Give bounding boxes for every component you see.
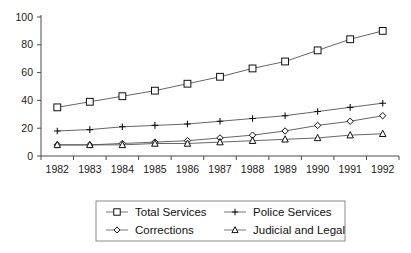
legend-label: Total Services	[135, 206, 207, 218]
marker-square	[54, 104, 61, 111]
marker-square	[152, 87, 159, 94]
x-tick-label: 1990	[306, 163, 330, 175]
x-tick-label: 1991	[339, 163, 363, 175]
marker-square	[217, 73, 224, 80]
chart-canvas: 020406080100 198219831984198519861987198…	[0, 0, 411, 253]
x-tick-label: 1987	[208, 163, 232, 175]
line-chart: 020406080100 198219831984198519861987198…	[0, 0, 411, 253]
legend-label: Police Services	[253, 206, 332, 218]
marker-square	[119, 93, 126, 100]
y-tick-label: 60	[21, 66, 33, 78]
marker-square	[347, 36, 354, 43]
marker-square	[249, 65, 256, 72]
legend-label: Judicial and Legal	[253, 224, 345, 236]
marker-square	[114, 209, 120, 215]
x-tick-label: 1982	[46, 163, 70, 175]
marker-square	[282, 58, 289, 65]
y-tick-label: 80	[21, 38, 33, 50]
x-tick-label: 1992	[371, 163, 395, 175]
y-tick-label: 100	[15, 11, 33, 23]
y-tick-label: 20	[21, 122, 33, 134]
x-tick-label: 1989	[273, 163, 297, 175]
marker-square	[184, 80, 191, 87]
x-tick-label: 1985	[143, 163, 167, 175]
marker-square	[314, 47, 321, 54]
x-tick-label: 1984	[111, 163, 135, 175]
y-tick-label: 0	[27, 150, 33, 162]
marker-square	[379, 28, 386, 35]
y-tick-label: 40	[21, 94, 33, 106]
x-tick-label: 1983	[78, 163, 102, 175]
x-tick-label: 1986	[176, 163, 200, 175]
marker-square	[86, 98, 93, 105]
x-tick-label: 1988	[241, 163, 265, 175]
legend-label: Corrections	[135, 224, 194, 236]
